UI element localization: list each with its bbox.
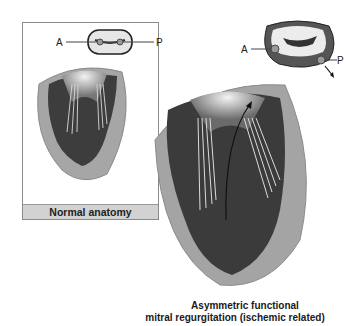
posterior-label-left: P [156,37,163,48]
normal-heart-illustration [27,62,137,182]
normal-valve-inset-icon: A P [50,28,170,58]
posterior-label-right: P [337,55,344,66]
anterior-label-left: A [56,37,63,48]
caption-line-1: Asymmetric functional [150,300,340,311]
normal-anatomy-label: Normal anatomy [23,204,158,219]
caption-line-2: mitral regurgitation (ischemic related) [120,312,347,323]
regurgitant-heart-illustration [140,80,320,290]
anterior-label-right: A [241,44,248,55]
regurgitant-valve-inset-icon: A P [237,14,347,84]
